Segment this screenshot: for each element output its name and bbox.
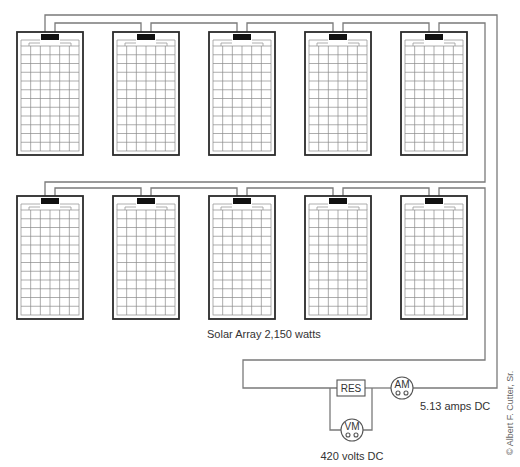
junction-box [233, 198, 251, 204]
solar-panel [401, 196, 467, 319]
solar-panel [209, 32, 275, 155]
ammeter-label: AM [395, 379, 410, 390]
junction-box [41, 198, 59, 204]
array-label: Solar Array 2,150 watts [207, 328, 321, 340]
current-reading: 5.13 amps DC [420, 400, 490, 412]
measurement-circuit: RES AM 5.13 amps DC VM 420 volts DC [321, 377, 491, 462]
junction-box [41, 34, 59, 40]
junction-box [329, 34, 347, 40]
solar-panel [113, 196, 179, 319]
voltage-reading: 420 volts DC [321, 450, 384, 462]
solar-array-diagram: Solar Array 2,150 watts RES AM 5.13 amps… [0, 0, 520, 467]
solar-panel [305, 196, 371, 319]
solar-panel [17, 32, 83, 155]
solar-panel [17, 196, 83, 319]
solar-panel [209, 196, 275, 319]
resistor-label: RES [341, 383, 362, 394]
junction-box [425, 198, 443, 204]
solar-panel [305, 32, 371, 155]
solar-panels [17, 32, 467, 319]
resistor: RES [337, 380, 365, 396]
junction-box [233, 34, 251, 40]
junction-box [137, 198, 155, 204]
solar-panel [113, 32, 179, 155]
junction-box [425, 34, 443, 40]
junction-box [137, 34, 155, 40]
copyright-credit: © Albert F. Cutter, Sr. [505, 371, 515, 455]
voltmeter-label: VM [345, 421, 360, 432]
voltmeter: VM [341, 419, 363, 441]
solar-panel [401, 32, 467, 155]
ammeter: AM [391, 377, 413, 399]
junction-box [329, 198, 347, 204]
